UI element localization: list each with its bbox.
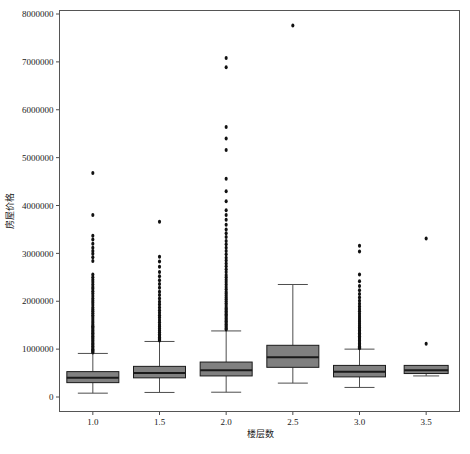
outlier-point <box>358 284 361 288</box>
x-axis-tick-label: 2.0 <box>221 417 233 427</box>
y-axis-tick-label: 7000000 <box>22 57 54 67</box>
outlier-point <box>225 56 228 60</box>
outlier-point <box>158 282 161 286</box>
y-axis-tick-label: 5000000 <box>22 153 54 163</box>
outlier-point <box>225 218 228 222</box>
outlier-point <box>225 231 228 235</box>
outlier-point <box>358 249 361 253</box>
outlier-point <box>91 259 94 263</box>
y-axis-tick-label: 2000000 <box>22 296 54 306</box>
box <box>200 362 252 376</box>
x-axis-tick-label: 3.0 <box>354 417 366 427</box>
y-axis-title: 房屋价格 <box>4 193 15 229</box>
outlier-point <box>91 171 94 175</box>
outlier-point <box>225 65 228 69</box>
x-axis-title: 楼层数 <box>247 428 274 439</box>
outlier-point <box>158 220 161 224</box>
outlier-point <box>158 339 161 343</box>
outlier-point <box>358 279 361 283</box>
outlier-point <box>91 234 94 238</box>
outlier-point <box>225 199 228 203</box>
outlier-point <box>91 255 94 259</box>
x-axis-tick-label: 3.5 <box>421 417 433 427</box>
y-axis-tick-label: 0 <box>49 392 54 402</box>
outlier-point <box>91 242 94 246</box>
plot-background <box>60 11 460 412</box>
outlier-point <box>425 342 428 346</box>
outlier-point <box>91 213 94 217</box>
outlier-point <box>158 255 161 259</box>
outlier-point <box>225 208 228 212</box>
outlier-point <box>225 213 228 217</box>
outlier-point <box>225 177 228 181</box>
x-axis-tick-label: 1.0 <box>87 417 99 427</box>
outlier-point <box>358 346 361 350</box>
outlier-point <box>225 136 228 140</box>
outlier-point <box>358 272 361 276</box>
outlier-point <box>158 274 161 278</box>
outlier-point <box>225 235 228 239</box>
outlier-point <box>225 125 228 129</box>
outlier-point <box>158 270 161 274</box>
outlier-point <box>225 223 228 227</box>
outlier-point <box>158 286 161 290</box>
y-axis-tick-label: 4000000 <box>22 201 54 211</box>
outlier-point <box>91 350 94 354</box>
outlier-point <box>91 237 94 241</box>
boxplot-figure: 0100000020000003000000400000050000006000… <box>0 0 470 454</box>
x-axis-tick-label: 1.5 <box>154 417 166 427</box>
y-axis-tick-label: 6000000 <box>22 105 54 115</box>
y-axis-tick-label: 8000000 <box>22 9 54 19</box>
outlier-point <box>158 260 161 264</box>
y-axis-tick-label: 3000000 <box>22 249 54 259</box>
outlier-point <box>158 265 161 269</box>
outlier-point <box>358 288 361 292</box>
outlier-point <box>425 237 428 241</box>
chart-svg: 0100000020000003000000400000050000006000… <box>0 0 470 454</box>
x-axis-tick-label: 2.5 <box>287 417 299 427</box>
outlier-point <box>291 23 294 27</box>
outlier-point <box>358 244 361 248</box>
outlier-point <box>225 227 228 231</box>
outlier-point <box>225 327 228 331</box>
outlier-point <box>225 189 228 193</box>
outlier-point <box>225 148 228 152</box>
y-axis-tick-label: 1000000 <box>22 344 54 354</box>
outlier-point <box>158 278 161 282</box>
